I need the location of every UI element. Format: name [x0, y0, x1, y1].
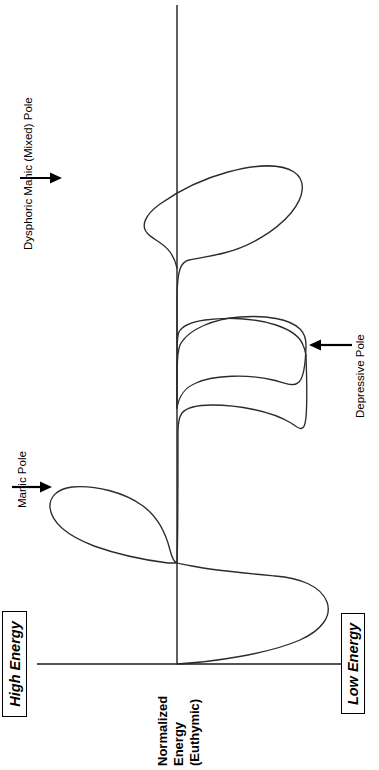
mood-energy-curve	[50, 166, 328, 664]
arrow-depressive	[309, 340, 352, 351]
label-depressive-pole: Depressive Pole	[354, 334, 366, 418]
label-manic-pole: Manic Pole	[16, 451, 28, 508]
normalized-energy-label-line1: Normalized	[156, 696, 171, 766]
low-energy-axis-box: Low Energy	[341, 613, 365, 714]
mood-curve-svg	[0, 0, 379, 770]
mood-cycle-figure: Dysphoric Manic (Mixed) Pole Manic Pole …	[0, 0, 379, 770]
normalized-energy-label-line3: (Euthymic)	[188, 699, 203, 766]
low-energy-label: Low Energy	[345, 622, 361, 704]
label-dysphoric-manic-pole: Dysphoric Manic (Mixed) Pole	[22, 97, 34, 250]
normalized-energy-label-line2: Energy	[172, 722, 187, 766]
high-energy-label: High Energy	[7, 621, 23, 706]
high-energy-axis-box: High Energy	[2, 611, 27, 717]
mood-curve-segment-depressive-lobe	[177, 317, 306, 409]
